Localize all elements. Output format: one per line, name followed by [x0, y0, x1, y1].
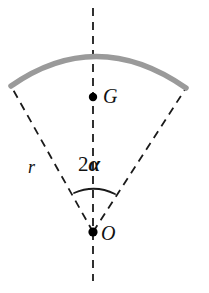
alpha-symbol: α [89, 152, 101, 176]
right-radius-dashed-line [93, 88, 186, 232]
geometry-diagram: G O r 2α [0, 0, 209, 293]
angle-measure-arc [74, 189, 115, 194]
angle-label: 2α [78, 154, 100, 175]
sector-arc [11, 56, 186, 88]
radius-label: r [28, 158, 35, 176]
centroid-label: G [103, 86, 117, 106]
centroid-point [89, 93, 97, 101]
origin-point [88, 227, 97, 236]
origin-label: O [101, 223, 115, 243]
diagram-canvas [0, 0, 209, 293]
angle-label-number: 2 [78, 152, 89, 176]
